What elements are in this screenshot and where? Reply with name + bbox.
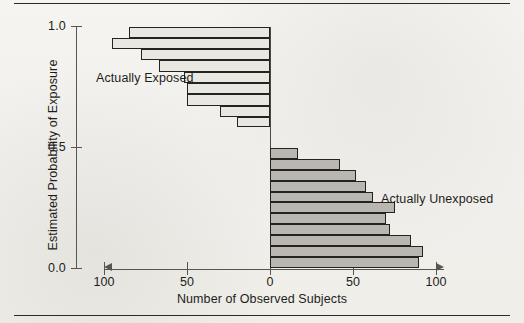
y-tick-1.0 [71, 26, 82, 27]
bar [270, 170, 356, 181]
x-axis-right-arrow-icon [436, 263, 444, 271]
bar [129, 27, 270, 38]
bar [184, 72, 270, 83]
bar [220, 106, 270, 117]
bar [270, 159, 340, 170]
y-tick-0.0 [71, 268, 82, 269]
x-axis-title: Number of Observed Subjects [0, 292, 524, 306]
series-label-actually-exposed: Actually Exposed [96, 71, 194, 85]
bar [270, 202, 395, 213]
y-tick-label-1.0: 1.0 [6, 19, 66, 33]
bar [270, 224, 390, 235]
x-axis-line [104, 269, 444, 270]
x-tick-label-1: 50 [165, 275, 209, 289]
x-tick-label-0: 100 [82, 275, 126, 289]
plot-area: Estimated Probability of Exposure 1.00.5… [0, 0, 524, 323]
bar [141, 49, 270, 60]
y-tick-label-0.5: 0.5 [6, 140, 66, 154]
bar [270, 192, 373, 203]
x-tick-label-3: 50 [331, 275, 375, 289]
x-tick-label-4: 100 [414, 275, 458, 289]
y-axis-title: Estimated Probability of Exposure [46, 30, 60, 280]
y-axis-spine [76, 27, 77, 269]
series-label-actually-unexposed: Actually Unexposed [381, 192, 493, 206]
bar [270, 257, 419, 268]
bar [187, 94, 270, 106]
bar [270, 246, 423, 257]
y-tick-0.5 [71, 147, 82, 148]
y-tick-label-0.0: 0.0 [6, 261, 66, 275]
bar [270, 213, 386, 224]
x-tick-4 [436, 262, 437, 275]
bar [159, 60, 270, 72]
x-axis-left-arrow-icon [104, 263, 112, 271]
bar [270, 235, 411, 246]
figure-container: Estimated Probability of Exposure 1.00.5… [0, 0, 524, 323]
x-tick-1 [187, 262, 188, 275]
bar [187, 83, 270, 94]
x-tick-label-2: 0 [248, 275, 292, 289]
bar [270, 181, 366, 192]
bar [270, 148, 298, 159]
bar [237, 117, 270, 128]
x-tick-0 [104, 262, 105, 275]
bar [112, 38, 270, 49]
